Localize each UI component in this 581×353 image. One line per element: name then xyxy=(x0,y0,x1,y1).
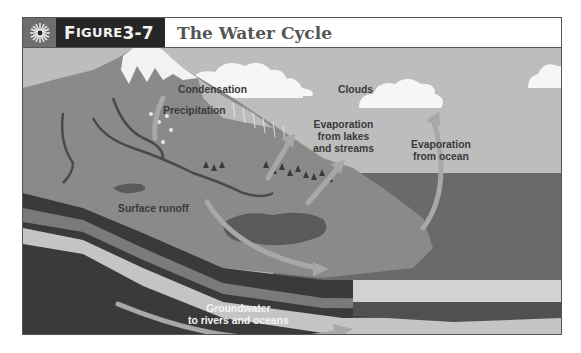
groundwater-line1: Groundwater xyxy=(188,302,289,314)
evaporation-lakes-line1: Evaporation xyxy=(313,118,374,130)
evaporation-ocean-line1: Evaporation xyxy=(411,138,471,150)
evaporation-ocean-label: Evaporation from ocean xyxy=(411,138,471,162)
water-cycle-illustration xyxy=(23,18,562,335)
sunburst-icon xyxy=(23,18,56,47)
figure-number-smallcaps: IGURE xyxy=(76,25,122,40)
condensation-label: Condensation xyxy=(178,83,247,95)
precipitation-label: Precipitation xyxy=(163,104,226,116)
groundwater-line2: to rivers and oceans xyxy=(188,314,289,326)
surface-runoff-label: Surface runoff xyxy=(118,202,189,214)
clouds-label: Clouds xyxy=(338,83,373,95)
figure-number-prefix: F xyxy=(64,23,76,43)
evaporation-ocean-line2: from ocean xyxy=(411,150,471,162)
figure-number: FIGURE 3-7 xyxy=(56,18,165,47)
evaporation-lakes-line2: from lakes xyxy=(313,130,374,142)
water-cycle-figure: FIGURE 3-7 The Water Cycle xyxy=(22,17,562,335)
evaporation-lakes-line3: and streams xyxy=(313,142,374,154)
figure-title: The Water Cycle xyxy=(165,18,561,47)
figure-header: FIGURE 3-7 The Water Cycle xyxy=(23,18,561,48)
figure-number-value: 3-7 xyxy=(122,23,154,43)
evaporation-lakes-label: Evaporation from lakes and streams xyxy=(313,118,374,154)
groundwater-label: Groundwater to rivers and oceans xyxy=(188,302,289,326)
